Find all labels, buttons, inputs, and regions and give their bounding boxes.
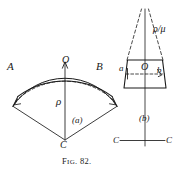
panel-b-panel-label: (b) bbox=[139, 114, 150, 123]
caption-smallcaps: IG bbox=[67, 158, 75, 166]
panel-b-label-b: b bbox=[157, 66, 162, 75]
caption-number: . 82. bbox=[75, 156, 91, 166]
panel-a-label-O: O bbox=[62, 55, 69, 65]
dashed-ray-right bbox=[149, 9, 164, 60]
panel-a-sector bbox=[13, 62, 117, 140]
dashed-ray-left bbox=[127, 9, 142, 60]
panel-b-label-rho-over-mu: ρ/μ bbox=[153, 24, 166, 34]
panel-b-axis-label-left: C bbox=[113, 136, 119, 145]
panel-a-label-A: A bbox=[7, 61, 14, 72]
panel-a-label-B: B bbox=[96, 61, 103, 72]
panel-a-label-rho: ρ bbox=[56, 96, 61, 107]
figure-caption: FIG. 82. bbox=[62, 156, 91, 166]
panel-b-label-a: a bbox=[119, 64, 124, 73]
left-radius-line bbox=[13, 106, 65, 140]
panel-b-label-O: O bbox=[141, 62, 148, 72]
panel-a-label-C: C bbox=[60, 140, 67, 150]
panel-a-panel-label: (a) bbox=[72, 116, 83, 125]
figure-82: A O B ρ (a) C ρ/μ a O b (b) C C FIG. 82. bbox=[0, 0, 180, 173]
panel-b-axis-label-right: C bbox=[166, 136, 172, 145]
